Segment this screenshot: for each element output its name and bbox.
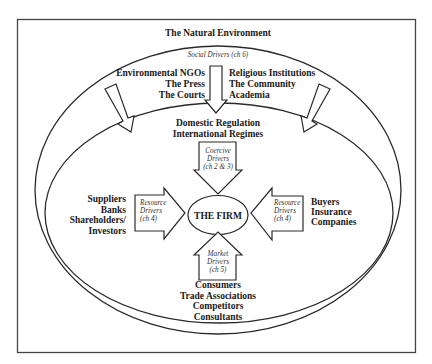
- social-drivers-label: Social Drivers (ch 6): [188, 51, 249, 59]
- resource-actor-right: Companies: [311, 217, 357, 227]
- coercive-drivers-label: (ch 2 & 3): [203, 163, 233, 171]
- market-actor: Consumers: [195, 280, 241, 290]
- resource-actor-left: Investors: [89, 226, 127, 236]
- market-actor: Trade Associations: [180, 291, 256, 301]
- social-actor-right: Academia: [229, 90, 270, 100]
- coercive-drivers-label: Drivers: [206, 155, 229, 163]
- resource-drivers-left-label: Resource: [139, 199, 167, 207]
- resource-drivers-right-label: Resource: [273, 199, 301, 207]
- resource-drivers-right-label: Drivers: [273, 207, 296, 215]
- regulator-label: International Regimes: [173, 129, 264, 139]
- resource-actor-right: Buyers: [311, 197, 340, 207]
- resource-actor-left: Suppliers: [87, 194, 126, 204]
- resource-actor-left: Shareholders/: [70, 215, 127, 225]
- market-drivers-label: Drivers: [206, 258, 229, 266]
- market-actor: Competitors: [193, 301, 244, 311]
- resource-actor-right: Insurance: [311, 207, 352, 217]
- resource-drivers-left-label: (ch 4): [140, 215, 158, 223]
- firm-drivers-diagram: The Natural Environment Social Drivers (…: [0, 0, 432, 364]
- resource-drivers-left-label: Drivers: [139, 207, 162, 215]
- social-actor-right: Religious Institutions: [229, 68, 316, 78]
- resource-drivers-right-label: (ch 4): [274, 215, 292, 223]
- the-firm-label: THE FIRM: [194, 211, 242, 221]
- market-drivers-label: Market: [207, 250, 230, 258]
- social-actor-left: The Courts: [159, 90, 205, 100]
- market-drivers-label: (ch 5): [210, 266, 228, 274]
- social-actor-left: The Press: [165, 79, 205, 89]
- natural-environment-title: The Natural Environment: [165, 28, 272, 38]
- regulator-label: Domestic Regulation: [176, 118, 261, 128]
- resource-actor-left: Banks: [101, 205, 127, 215]
- social-actor-left: Environmental NGOs: [116, 68, 205, 78]
- social-actor-right: The Community: [229, 79, 296, 89]
- coercive-drivers-label: Coercive: [205, 147, 231, 155]
- market-actor: Consultants: [194, 312, 243, 322]
